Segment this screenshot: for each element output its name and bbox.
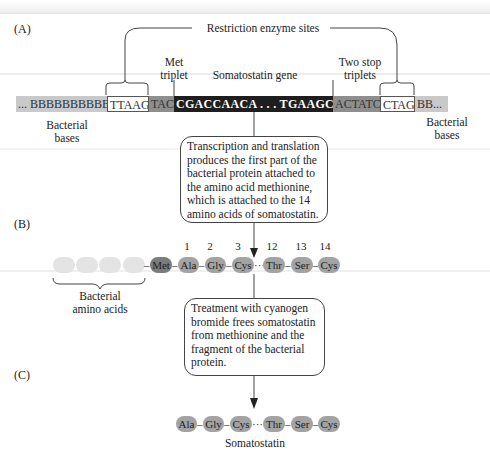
bacterial-bases-right-label: Bacterial bases: [412, 116, 482, 142]
panel-label-a: (A): [14, 22, 31, 37]
amino-acid-gly: Gly: [203, 416, 224, 432]
somatostatin-label: Somatostatin: [210, 437, 300, 450]
somatostatin-gene-label: Somatostatin gene: [200, 69, 310, 82]
peptide-bond: –: [285, 257, 291, 273]
amino-acid-cys: Cys: [232, 257, 254, 273]
peptide-bond: –: [199, 257, 205, 273]
dna-met-triplet: TAC: [149, 96, 174, 112]
panel-label-b: (B): [14, 217, 30, 232]
transcription-note-box: Transcription and translation produces t…: [180, 136, 328, 223]
position-number: 2: [200, 240, 220, 252]
peptide-bond: –: [285, 416, 291, 432]
cyanogen-bromide-note-box: Treatment with cyanogen bromide frees so…: [184, 298, 325, 376]
dna-stop-triplets: ACTATC: [333, 96, 380, 112]
peptide-bond: –: [224, 416, 230, 432]
met-triplet-label: Met triplet: [146, 56, 202, 82]
position-number: 12: [262, 240, 282, 252]
amino-acid-ala: Ala: [176, 416, 197, 432]
dna-restriction-site-right: CTAG: [380, 96, 415, 112]
amino-acid-ser: Ser: [291, 257, 313, 273]
amino-acid-cys: Cys: [230, 416, 252, 432]
peptide-bond: –: [226, 257, 232, 273]
amino-acid-thr: Thr: [263, 416, 285, 432]
amino-acid-thr: Thr: [263, 257, 285, 273]
dna-bacterial-right: BB...: [415, 96, 448, 112]
dna-bacterial-left: ... BBBBBBBBBBBBB: [16, 96, 107, 112]
position-number: 1: [177, 240, 197, 252]
bacterial-amino-acid: [76, 257, 98, 273]
amino-acid-ser: Ser: [291, 416, 313, 432]
restriction-enzyme-label: Restriction enzyme sites: [198, 22, 328, 35]
peptide-bond: –: [197, 416, 203, 432]
amino-acid-gly: Gly: [205, 257, 226, 273]
bacterial-amino-acid: [99, 257, 121, 273]
position-number: 13: [291, 240, 311, 252]
ellipsis: ···: [252, 416, 263, 432]
position-number: 3: [228, 240, 248, 252]
dna-restriction-site-left: TTAAG: [107, 96, 149, 112]
peptide-bond: –: [172, 257, 178, 273]
bacterial-bases-left-label: Bacterial bases: [32, 119, 102, 145]
bacterial-amino-acids-label: Bacterial amino acids: [60, 290, 140, 316]
stop-triplets-label: Two stop triplets: [325, 56, 395, 82]
amino-acid-cys: Cys: [318, 416, 340, 432]
peptide-bond: –: [144, 257, 150, 273]
amino-acid-cys: Cys: [318, 257, 340, 273]
dna-somatostatin-gene: CGACCAACA . . . TGAAGCACA: [174, 96, 333, 112]
amino-acid-ala: Ala: [178, 257, 199, 273]
panel-label-c: (C): [14, 368, 30, 383]
bacterial-amino-acid: [53, 257, 75, 273]
amino-acid-met: Met: [150, 257, 172, 273]
position-number: 14: [315, 240, 335, 252]
bacterial-amino-acid: [123, 257, 145, 273]
